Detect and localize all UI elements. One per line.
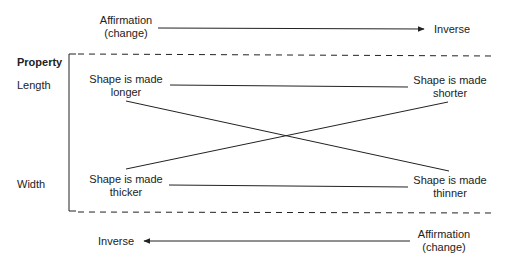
node-thicker: Shape is made thicker [86,173,166,199]
label-line: Shape is made [410,74,490,87]
top-arrow [158,28,424,29]
node-thinner: Shape is made thinner [410,174,490,200]
label-line: shorter [410,87,490,100]
label-line: Shape is made [86,173,166,186]
thicker-thinner-link [169,185,408,187]
property-heading: Property [17,56,62,69]
label-line: Shape is made [86,73,166,86]
bottom-inverse-label: Inverse [98,235,134,248]
property-length: Length [17,79,51,92]
label-line: (change) [94,27,158,40]
label-line: (change) [412,241,476,254]
label-line: longer [86,86,166,99]
property-width: Width [17,178,45,191]
label-line: thicker [86,186,166,199]
top-dashed-border [78,54,494,56]
diagram-lines [0,0,508,266]
longer-shorter-link [170,85,408,87]
top-inverse-label: Inverse [434,23,470,36]
bottom-affirmation-label: Affirmation (change) [412,228,476,254]
node-longer: Shape is made longer [86,73,166,99]
label-line: thinner [410,187,490,200]
thicker-shorter-link [126,102,448,169]
label-line: Shape is made [410,174,490,187]
node-shorter: Shape is made shorter [410,74,490,100]
bottom-dashed-border [78,212,494,213]
top-affirmation-label: Affirmation (change) [94,14,158,40]
label-line: Affirmation [412,228,476,241]
label-line: Affirmation [94,14,158,27]
